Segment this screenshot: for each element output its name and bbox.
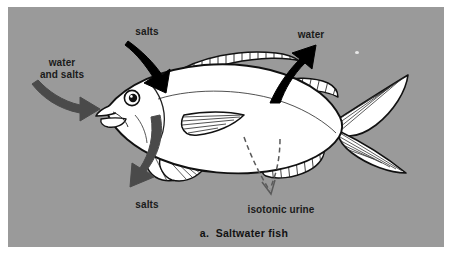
label-water-top: water bbox=[287, 29, 335, 41]
water-and-salts-in-arrow bbox=[32, 80, 100, 121]
caudal-fin bbox=[338, 75, 408, 173]
image-speck-artifact bbox=[355, 51, 359, 54]
fish-eye bbox=[124, 90, 139, 105]
label-salts-bottom: salts bbox=[121, 199, 173, 211]
label-salts-top: salts bbox=[121, 26, 173, 38]
figure-caption: a. Saltwater fish bbox=[154, 227, 334, 239]
fish-diagram-svg bbox=[8, 7, 444, 247]
figure-root: salts water water and salts salts isoton… bbox=[0, 0, 452, 258]
label-water-and-salts: water and salts bbox=[28, 57, 96, 80]
diagram-panel: salts water water and salts salts isoton… bbox=[8, 7, 444, 247]
label-isotonic-urine: isotonic urine bbox=[236, 204, 326, 216]
